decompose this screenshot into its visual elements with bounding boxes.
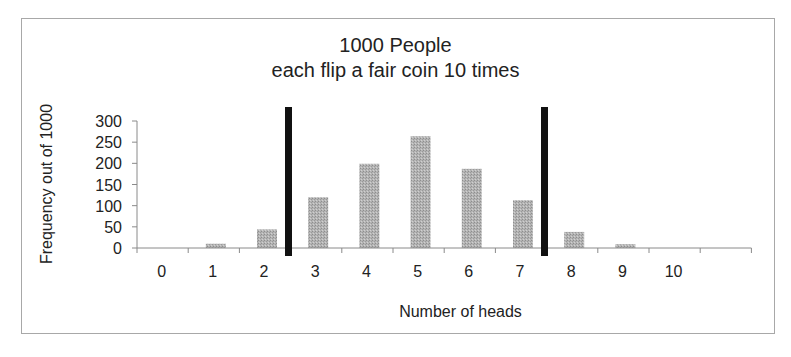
x-tick-label: 1 bbox=[208, 263, 217, 280]
bar-5 bbox=[411, 136, 431, 248]
y-tick-label: 100 bbox=[95, 198, 122, 215]
bar-9 bbox=[615, 244, 635, 248]
y-tick-label: 250 bbox=[95, 134, 122, 151]
x-tick-label: 2 bbox=[260, 263, 269, 280]
x-tick-label: 9 bbox=[618, 263, 627, 280]
bar-4 bbox=[359, 164, 379, 248]
y-tick-label: 150 bbox=[95, 177, 122, 194]
x-tick-label: 7 bbox=[516, 263, 525, 280]
y-tick-label: 50 bbox=[104, 219, 122, 236]
left-threshold-line bbox=[285, 107, 292, 256]
bar-7 bbox=[513, 200, 533, 248]
bar-3 bbox=[308, 197, 328, 248]
bar-series bbox=[206, 136, 636, 248]
right-threshold-line bbox=[541, 107, 548, 256]
y-tick-label: 300 bbox=[95, 113, 122, 130]
y-tick-label: 200 bbox=[95, 155, 122, 172]
x-tick-label: 3 bbox=[311, 263, 320, 280]
x-tick-label: 5 bbox=[413, 263, 422, 280]
x-tick-label: 0 bbox=[157, 263, 166, 280]
bar-1 bbox=[206, 244, 226, 248]
x-tick-label: 8 bbox=[567, 263, 576, 280]
x-tick-label: 4 bbox=[362, 263, 371, 280]
bar-2 bbox=[257, 229, 277, 248]
y-tick-label: 0 bbox=[113, 240, 122, 257]
bar-6 bbox=[462, 169, 482, 248]
x-tick-label: 6 bbox=[464, 263, 473, 280]
plot-area: 050100150200250300012345678910 bbox=[0, 0, 791, 357]
x-tick-label: 10 bbox=[665, 263, 683, 280]
bar-8 bbox=[564, 232, 584, 248]
